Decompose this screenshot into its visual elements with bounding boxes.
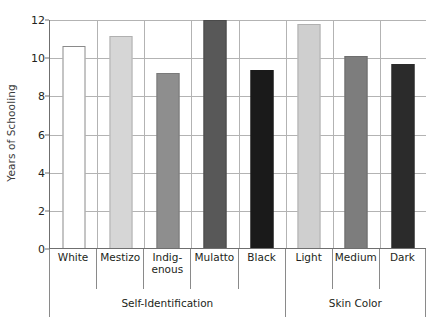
- x-axis-group-row: Self-IdentificationSkin Color: [49, 289, 426, 317]
- x-axis-category-label: White: [58, 252, 89, 264]
- x-axis-category-label: Black: [247, 252, 275, 264]
- bar: [203, 20, 226, 249]
- bar: [345, 56, 368, 249]
- x-axis-category-cell: Dark: [379, 249, 426, 289]
- x-axis-category-cell: Indig-enous: [143, 249, 190, 289]
- x-axis-category-label: Medium: [335, 252, 377, 264]
- x-axis-group-cell: Skin Color: [285, 289, 426, 317]
- y-tick-label: 6: [38, 128, 45, 141]
- bar-column: [144, 20, 191, 249]
- x-axis-category-cell: Mulatto: [190, 249, 237, 289]
- x-axis-category-row: WhiteMestizoIndig-enousMulattoBlackLight…: [49, 249, 426, 289]
- bar-column: [191, 20, 238, 249]
- y-tick-label: 12: [31, 14, 45, 27]
- bar: [251, 70, 274, 249]
- bar-chart-figure: Years of Schooling 024681012 WhiteMestiz…: [0, 0, 444, 330]
- bar: [298, 24, 321, 249]
- bar-column: [50, 20, 97, 249]
- x-axis-category-cell: White: [49, 249, 96, 289]
- x-axis-category-label: Mestizo: [100, 252, 140, 264]
- bar-column: [286, 20, 333, 249]
- plot-area: [49, 20, 426, 249]
- y-tick-label: 0: [38, 243, 45, 256]
- y-axis-title-text: Years of Schooling: [5, 84, 17, 181]
- x-axis-category-label: Indig-enous: [151, 252, 183, 275]
- bar: [109, 36, 132, 249]
- x-axis-category-label: Light: [296, 252, 322, 264]
- y-tick-label: 4: [38, 166, 45, 179]
- y-axis-ticks: 024681012: [22, 0, 49, 265]
- bar-column: [333, 20, 380, 249]
- bar: [156, 73, 179, 249]
- x-axis-category-label: Mulatto: [195, 252, 235, 264]
- y-tick-label: 10: [31, 52, 45, 65]
- bar-column: [97, 20, 144, 249]
- bar-column: [380, 20, 427, 249]
- bar-column: [239, 20, 286, 249]
- y-tick-label: 8: [38, 90, 45, 103]
- y-tick-label: 2: [38, 204, 45, 217]
- bar: [392, 64, 415, 249]
- x-axis-category-cell: Medium: [332, 249, 379, 289]
- x-axis-category-label: Dark: [390, 252, 415, 264]
- x-axis-category-cell: Black: [238, 249, 285, 289]
- y-axis-title: Years of Schooling: [0, 0, 22, 265]
- x-axis-group-label: Self-Identification: [121, 297, 213, 309]
- x-axis-category-cell: Mestizo: [96, 249, 143, 289]
- x-axis-category-cell: Light: [285, 249, 332, 289]
- x-axis-group-label: Skin Color: [329, 297, 382, 309]
- x-axis-group-cell: Self-Identification: [49, 289, 285, 317]
- bar: [62, 46, 85, 249]
